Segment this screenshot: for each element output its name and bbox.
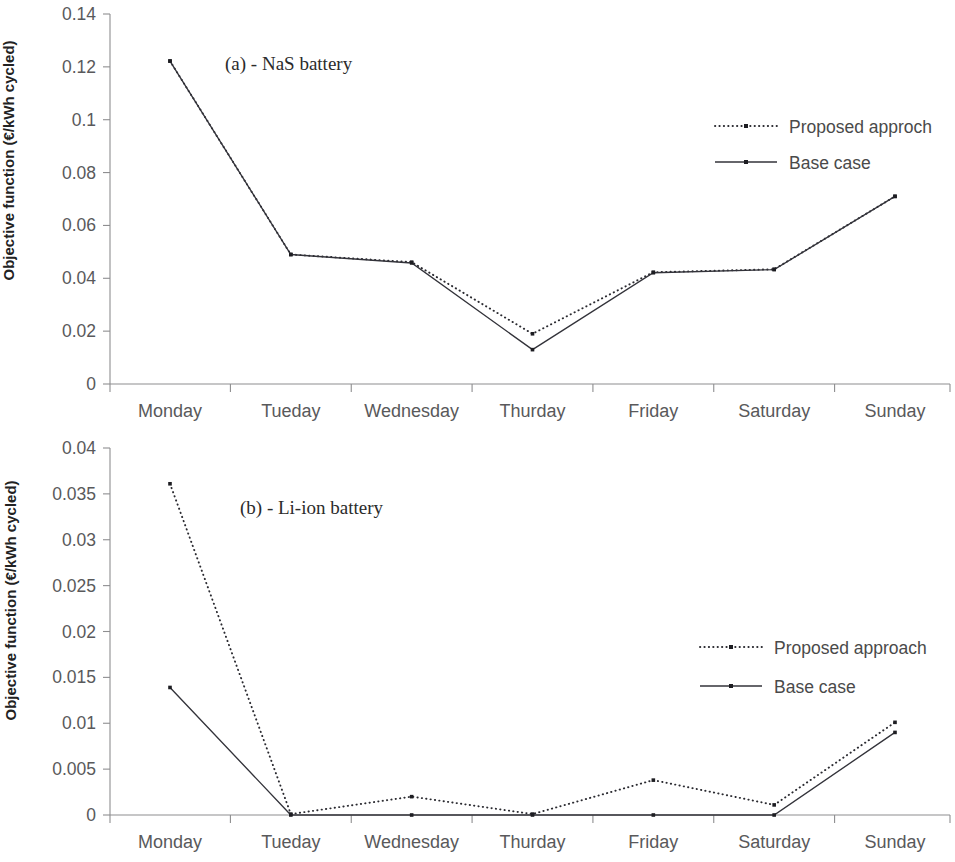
- y-tick-label: 0.02: [62, 321, 96, 341]
- data-point-marker: [531, 348, 535, 352]
- y-tick-label: 0.015: [52, 667, 96, 687]
- x-tick-label: Sunday: [864, 832, 925, 852]
- data-point-marker: [893, 195, 897, 199]
- y-tick-label: 0.12: [62, 57, 96, 77]
- x-tick-label: Tueday: [261, 832, 320, 852]
- legend-label-proposed: Proposed approch: [789, 117, 932, 137]
- chart-subtitle: (b) - Li-ion battery: [240, 497, 383, 519]
- x-tick-label: Thurday: [499, 832, 565, 852]
- data-point-marker: [168, 482, 172, 486]
- y-tick-label: 0.005: [52, 759, 96, 779]
- legend-label-base: Base case: [774, 677, 856, 697]
- x-tick-label: Friday: [628, 401, 678, 421]
- legend-marker: [744, 160, 748, 164]
- series-line-proposed: [170, 61, 895, 334]
- y-tick-label: 0.025: [52, 576, 96, 596]
- y-tick-label: 0.01: [62, 713, 96, 733]
- data-point-marker: [531, 813, 535, 817]
- x-tick-label: Wednesday: [364, 401, 459, 421]
- y-tick-label: 0.03: [62, 530, 96, 550]
- data-point-marker: [652, 778, 656, 782]
- chart-panel-liion-battery: Objective function (€/kWh cycled) 00.005…: [0, 432, 955, 862]
- y-tick-label: 0.04: [62, 438, 96, 458]
- series-line-base: [170, 687, 895, 815]
- x-tick-label: Monday: [138, 401, 202, 421]
- x-tick-label: Friday: [628, 832, 678, 852]
- data-point-marker: [289, 813, 293, 817]
- data-point-marker: [410, 795, 414, 799]
- y-tick-label: 0.06: [62, 215, 96, 235]
- data-point-marker: [410, 813, 414, 817]
- legend-marker: [729, 645, 733, 649]
- legend-marker: [729, 684, 733, 688]
- data-point-marker: [772, 813, 776, 817]
- plot-area-a: 00.020.040.060.080.10.120.14MondayTueday…: [0, 0, 955, 432]
- y-tick-label: 0.1: [72, 110, 96, 130]
- data-point-marker: [893, 721, 897, 725]
- y-tick-label: 0.02: [62, 622, 96, 642]
- legend-marker: [744, 124, 748, 128]
- data-point-marker: [289, 253, 293, 257]
- figure-container: Objective function (€/kWh cycled) 00.020…: [0, 0, 955, 862]
- data-point-marker: [893, 731, 897, 735]
- x-tick-label: Saturday: [738, 832, 810, 852]
- x-tick-label: Sunday: [864, 401, 925, 421]
- x-tick-label: Wednesday: [364, 832, 459, 852]
- y-tick-label: 0.14: [62, 4, 96, 24]
- chart-panel-nas-battery: Objective function (€/kWh cycled) 00.020…: [0, 0, 955, 432]
- y-tick-label: 0.035: [52, 484, 96, 504]
- legend-label-proposed: Proposed approach: [774, 638, 927, 658]
- data-point-marker: [531, 332, 535, 336]
- data-point-marker: [772, 268, 776, 272]
- data-point-marker: [772, 803, 776, 807]
- y-tick-label: 0.04: [62, 268, 96, 288]
- x-tick-label: Thurday: [499, 401, 565, 421]
- data-point-marker: [410, 261, 414, 265]
- plot-area-b: 00.0050.010.0150.020.0250.030.0350.04Mon…: [0, 432, 955, 862]
- data-point-marker: [168, 686, 172, 690]
- y-tick-label: 0: [86, 374, 96, 394]
- x-tick-label: Monday: [138, 832, 202, 852]
- data-point-marker: [652, 271, 656, 275]
- y-tick-label: 0.08: [62, 163, 96, 183]
- y-tick-label: 0: [86, 805, 96, 825]
- legend-label-base: Base case: [789, 153, 871, 173]
- data-point-marker: [168, 59, 172, 63]
- x-tick-label: Tueday: [261, 401, 320, 421]
- data-point-marker: [652, 813, 656, 817]
- x-tick-label: Saturday: [738, 401, 810, 421]
- series-line-base: [170, 61, 895, 350]
- chart-subtitle: (a) - NaS battery: [225, 53, 353, 75]
